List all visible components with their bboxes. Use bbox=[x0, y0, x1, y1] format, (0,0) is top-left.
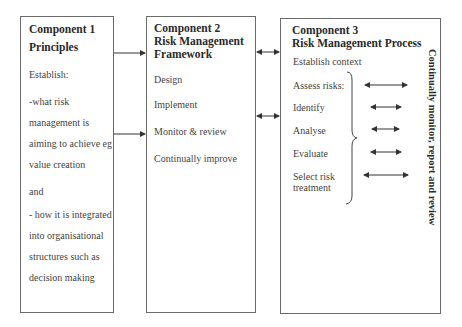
connectors bbox=[0, 0, 462, 327]
curly-brace bbox=[346, 72, 357, 204]
